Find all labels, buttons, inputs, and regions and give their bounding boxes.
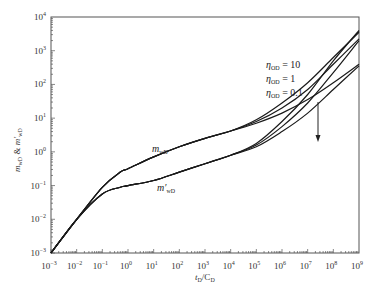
tick-label: 101 (34, 112, 46, 123)
axis-ticks (51, 19, 358, 253)
tick-label: 104 (223, 260, 235, 271)
eta-label-01: ηOD = 0.1 (266, 87, 303, 99)
plot-frame (51, 17, 359, 253)
series-line (51, 32, 359, 253)
tick-label: 102 (34, 78, 46, 89)
tick-label: 108 (325, 260, 337, 271)
tick-label: 104 (34, 11, 46, 22)
tick-label: 100 (34, 146, 46, 157)
curves (51, 31, 359, 254)
curve-label-mwd: mwD (152, 143, 169, 155)
series-line (51, 41, 359, 253)
y-tick-labels: 10−310−210−1100101102103104 (31, 11, 46, 258)
tick-label: 103 (197, 260, 209, 271)
tick-label: 103 (34, 45, 46, 56)
tick-label: 101 (146, 260, 158, 271)
tick-label: 10−2 (67, 260, 82, 271)
tick-label: 10−1 (31, 180, 46, 191)
tick-label: 109 (351, 260, 363, 271)
y-axis-title: mwD & m′wD (12, 128, 23, 172)
eta-label-1: ηOD = 1 (266, 73, 295, 85)
tick-label: 10−3 (41, 260, 56, 271)
tick-label: 10−2 (31, 213, 46, 224)
series-line (51, 39, 359, 253)
series-line (51, 66, 359, 253)
tick-label: 107 (300, 260, 312, 271)
tick-label: 10−1 (93, 260, 108, 271)
log-log-chart: 10−310−210−11001011021031041051061071081… (0, 0, 379, 298)
tick-label: 10−3 (31, 247, 46, 258)
trend-arrow-head-icon (316, 135, 321, 142)
tick-label: 105 (248, 260, 260, 271)
curve-label-mpwd: m′wD (157, 182, 176, 194)
x-axis-title: tD/CD (195, 272, 215, 283)
series-line (51, 64, 359, 253)
tick-label: 102 (171, 260, 183, 271)
series-line (51, 31, 359, 254)
tick-label: 106 (274, 260, 286, 271)
eta-label-10: ηOD = 10 (266, 59, 300, 71)
x-tick-labels: 10−310−210−11001011021031041051061071081… (41, 260, 363, 271)
tick-label: 100 (120, 260, 132, 271)
